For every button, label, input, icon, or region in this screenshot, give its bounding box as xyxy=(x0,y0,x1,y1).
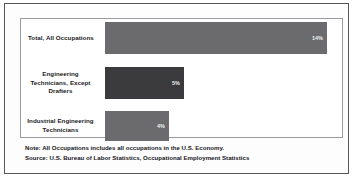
chart-footnotes: Note: All Occupations includes all occup… xyxy=(25,143,335,163)
note-text: Note: All Occupations includes all occup… xyxy=(25,143,335,153)
bar-value-label: 5% xyxy=(172,80,184,86)
source-text: Source: U.S. Bureau of Labor Statistics,… xyxy=(25,153,335,163)
bar-value-label: 4% xyxy=(157,123,169,129)
category-label: Engineering Technicians, Except Drafters xyxy=(21,70,105,97)
bar-industrial-engineering-technicians[interactable]: 4% xyxy=(105,111,169,141)
category-label-line: Technicians, Except xyxy=(21,79,100,88)
bar-track: 4% xyxy=(105,111,342,141)
bar-track: 5% xyxy=(105,67,342,99)
bar-track: 14% xyxy=(105,22,342,54)
bar-total-all-occupations[interactable]: 14% xyxy=(105,22,327,54)
bar-value-label: 14% xyxy=(312,35,327,41)
plot-area: Total, All Occupations 14% Engineering T… xyxy=(20,18,343,138)
bar-engineering-technicians-except-drafters[interactable]: 5% xyxy=(105,67,184,99)
category-label: Total, All Occupations xyxy=(21,34,105,43)
bar-row: Total, All Occupations 14% xyxy=(21,22,342,54)
category-label-line: Technicians xyxy=(21,126,100,135)
category-label-line: Drafters xyxy=(21,87,100,96)
category-label-line: Engineering xyxy=(21,70,100,79)
category-label-line: Industrial Engineering xyxy=(21,117,100,126)
bar-row: Industrial Engineering Technicians 4% xyxy=(21,111,342,141)
chart-figure: Total, All Occupations 14% Engineering T… xyxy=(4,3,349,174)
category-label: Industrial Engineering Technicians xyxy=(21,117,105,135)
category-label-line: Total, All Occupations xyxy=(28,34,100,43)
bar-row: Engineering Technicians, Except Drafters… xyxy=(21,67,342,99)
